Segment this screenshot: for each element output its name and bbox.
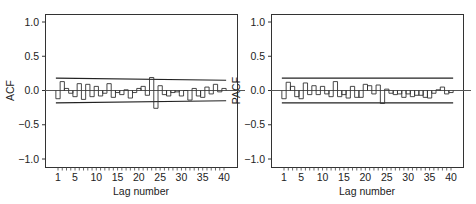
correlation-bars	[56, 77, 226, 108]
y-axis-title: PACF	[230, 77, 242, 104]
lower-confidence-line	[56, 101, 226, 103]
y-tick-label: 0.0	[24, 84, 39, 96]
x-tick-label: 10	[317, 171, 329, 183]
x-tick-label: 5	[298, 171, 304, 183]
y-tick-label: 0.5	[250, 50, 265, 62]
pacf-panel: 1.00.50.0−0.5−1.0PACF1510152025303540Lag…	[230, 15, 471, 198]
y-tick-label: −0.5	[244, 118, 265, 130]
y-axis-title: ACF	[4, 80, 16, 101]
x-tick-label: 35	[424, 171, 436, 183]
x-axis-title: Lag number	[113, 185, 170, 197]
x-tick-label: 20	[133, 171, 145, 183]
x-tick-label: 40	[445, 171, 457, 183]
x-tick-label: 30	[176, 171, 188, 183]
y-tick-label: −0.5	[18, 118, 39, 130]
acf-pacf-figure: 1.00.50.0−0.5−1.0ACF1510152025303540Lag …	[0, 0, 476, 204]
y-tick-label: 0.5	[24, 50, 39, 62]
x-tick-label: 25	[381, 171, 393, 183]
x-tick-label: 15	[338, 171, 350, 183]
correlation-bars	[282, 82, 453, 104]
x-tick-label: 15	[112, 171, 124, 183]
x-tick-label: 35	[197, 171, 209, 183]
y-tick-label: −1.0	[244, 153, 265, 165]
x-axis-title: Lag number	[339, 185, 396, 197]
y-tick-label: −1.0	[18, 153, 39, 165]
acf-panel: 1.00.50.0−0.5−1.0ACF1510152025303540Lag …	[4, 15, 245, 198]
x-tick-label: 1	[55, 171, 61, 183]
x-tick-label: 5	[72, 171, 78, 183]
x-tick-label: 1	[281, 171, 287, 183]
upper-confidence-line	[56, 78, 226, 80]
y-tick-label: 0.0	[250, 84, 265, 96]
x-tick-label: 25	[154, 171, 166, 183]
x-tick-label: 20	[360, 171, 372, 183]
y-tick-label: 1.0	[250, 16, 265, 28]
y-tick-label: 1.0	[24, 16, 39, 28]
x-tick-label: 10	[90, 171, 102, 183]
x-tick-label: 30	[402, 171, 414, 183]
x-tick-label: 40	[218, 171, 230, 183]
